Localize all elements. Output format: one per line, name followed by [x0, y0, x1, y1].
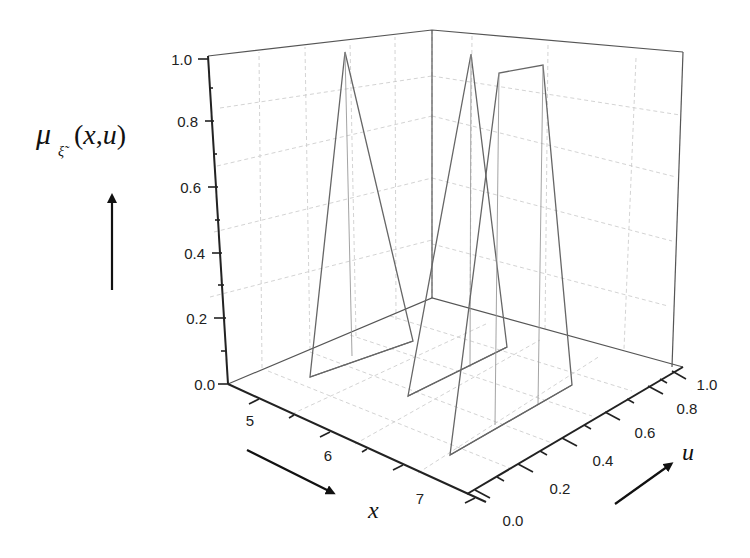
u-tick-label: 0.4 — [593, 452, 614, 469]
z-tick-label: 0.2 — [186, 310, 207, 327]
z-label-mu: μ — [35, 117, 51, 150]
z-tick-label: 0.6 — [180, 179, 201, 196]
z-tick-label: 0.0 — [194, 376, 215, 393]
x-tick-label: 6 — [324, 447, 332, 464]
u-tick-label: 1.0 — [697, 376, 718, 393]
u-tick-label: 0.6 — [635, 424, 656, 441]
u-tick-label: 0.0 — [503, 512, 524, 529]
u-tick-label: 0.2 — [550, 480, 571, 497]
z-tick-label: 0.4 — [184, 245, 205, 262]
x-tick-label: 5 — [246, 412, 254, 429]
u-arrow-icon — [615, 464, 671, 504]
u-tick-label: 0.8 — [677, 400, 698, 417]
u-axis: 0.0 0.2 0.4 0.6 0.8 1.0 — [467, 367, 717, 529]
series-slice-2 — [408, 54, 507, 396]
z-axis: 0.0 0.2 0.4 0.6 0.8 1.0 — [171, 51, 228, 393]
x-arrow-icon — [247, 450, 333, 493]
axes-frame — [208, 30, 683, 384]
x-axis: 5 6 7 — [228, 384, 486, 507]
3d-membership-chart: 0.0 0.2 0.4 0.6 0.8 1.0 5 6 7 — [0, 0, 750, 558]
x-axis-label: x — [367, 497, 379, 523]
grid-back-wall — [208, 37, 432, 384]
x-tick-label: 7 — [416, 490, 424, 507]
z-label-args: (x,u) — [74, 119, 126, 150]
u-axis-label: u — [682, 439, 694, 465]
z-tick-label: 0.8 — [177, 113, 198, 130]
z-tick-label: 1.0 — [171, 51, 192, 68]
z-axis-label: μ ξ̃ (x,u) — [35, 117, 126, 159]
grid-floor — [268, 316, 632, 473]
series-slice-3 — [450, 65, 572, 455]
z-label-subscript: ξ̃ — [58, 144, 70, 159]
